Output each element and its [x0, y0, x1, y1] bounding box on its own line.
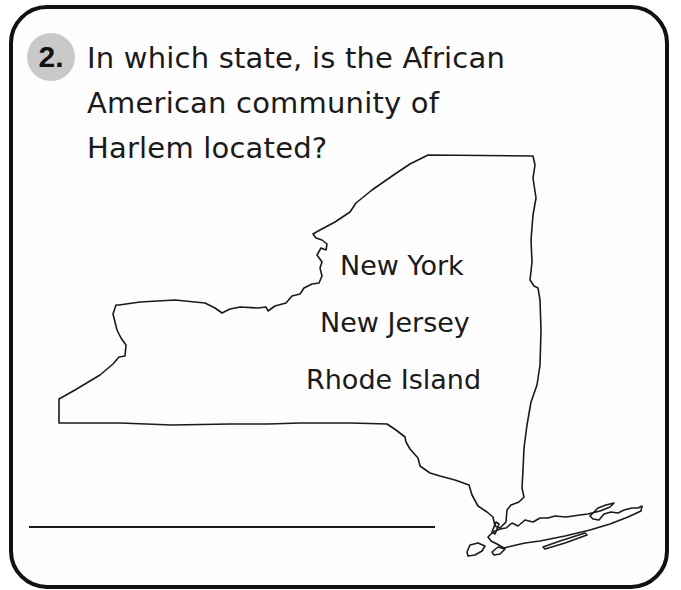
answer-line[interactable] [29, 526, 435, 528]
option-new-jersey[interactable]: New Jersey [320, 309, 470, 336]
option-rhode-island[interactable]: Rhode Island [306, 366, 481, 393]
option-new-york[interactable]: New York [340, 252, 464, 279]
new-york-map-icon [0, 0, 681, 590]
